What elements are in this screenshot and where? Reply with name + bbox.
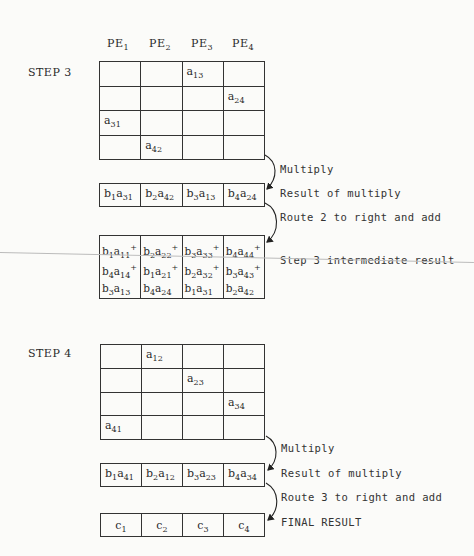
step3-multiply-arrow bbox=[265, 155, 275, 189]
step4-route-arrow bbox=[266, 483, 277, 520]
step3-route-arrow bbox=[265, 203, 277, 242]
step4-multiply-arrow bbox=[266, 436, 276, 470]
